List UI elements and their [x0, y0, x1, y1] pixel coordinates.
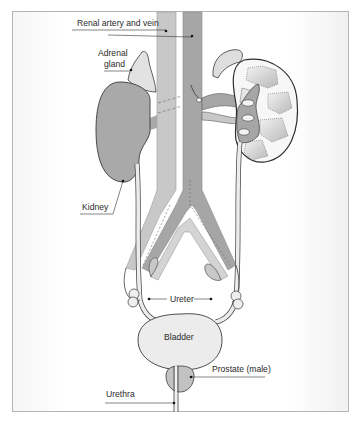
svg-text:Urethra: Urethra: [106, 389, 135, 399]
label-urethra: Urethra: [105, 389, 175, 404]
label-ureter: Ureter: [148, 294, 213, 304]
prostate: [166, 366, 194, 392]
label-kidney: Kidney: [80, 180, 124, 214]
right-kidney-cross-section: [233, 59, 297, 162]
svg-text:Kidney: Kidney: [82, 202, 109, 212]
svg-text:Bladder: Bladder: [164, 332, 194, 342]
svg-text:Prostate (male): Prostate (male): [212, 364, 271, 374]
label-adrenal-gland: Adrenal gland: [98, 48, 132, 71]
svg-text:Renal artery and vein: Renal artery and vein: [77, 18, 159, 28]
svg-text:Ureter: Ureter: [170, 294, 194, 304]
left-kidney: [96, 82, 150, 182]
svg-text:gland: gland: [104, 59, 125, 69]
label-bladder: Bladder: [164, 332, 194, 342]
urinary-system-diagram: Renal artery and vein Adrenal gland Kidn…: [0, 0, 356, 423]
aorta: [142, 12, 236, 280]
svg-text:Adrenal: Adrenal: [98, 48, 128, 58]
